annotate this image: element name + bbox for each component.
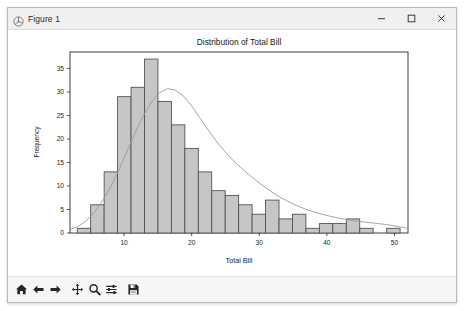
histogram-bar (319, 224, 332, 233)
maximize-button[interactable] (396, 8, 426, 29)
zoom-button[interactable] (86, 281, 103, 299)
y-axis-ticks: 05101520253035 (57, 65, 70, 237)
minimize-button[interactable] (366, 8, 396, 29)
floppy-disk-icon (127, 283, 140, 296)
histogram-bar (118, 97, 131, 233)
arrow-right-icon (49, 283, 62, 296)
sliders-icon (105, 283, 118, 296)
x-tick-label: 20 (188, 239, 196, 246)
histogram-bar (104, 172, 117, 233)
histogram-bar (171, 125, 184, 233)
home-button[interactable] (13, 281, 30, 299)
histogram-bar (306, 228, 319, 233)
y-tick-label: 30 (57, 88, 65, 95)
histogram-bar (266, 200, 279, 233)
histogram-bar (77, 228, 90, 233)
move-cross-icon (71, 283, 84, 296)
histogram-bar (198, 172, 211, 233)
plot-svg[interactable]: Distribution of Total Bill 1020304050 05… (8, 30, 456, 275)
navigation-toolbar (8, 276, 456, 302)
histogram-bar (279, 219, 292, 233)
histogram-bar (360, 228, 373, 233)
y-tick-label: 20 (57, 135, 65, 142)
arrow-left-icon (32, 283, 45, 296)
histogram-bar (333, 224, 346, 233)
y-tick-label: 15 (57, 159, 65, 166)
histogram-bar (158, 101, 171, 233)
x-tick-label: 10 (120, 239, 128, 246)
histogram-bar (212, 191, 225, 233)
chart-title: Distribution of Total Bill (197, 37, 282, 47)
y-axis-label: Frequency (33, 126, 41, 158)
histogram-bar (225, 195, 238, 233)
close-button[interactable] (426, 8, 456, 29)
back-button[interactable] (30, 281, 47, 299)
window-title: Figure 1 (28, 14, 60, 24)
forward-button[interactable] (47, 281, 64, 299)
histogram-bar (239, 205, 252, 233)
window-controls (366, 8, 456, 29)
histogram-bar (131, 87, 144, 233)
histogram-bar (91, 205, 104, 233)
pan-button[interactable] (69, 281, 86, 299)
x-axis-ticks: 1020304050 (120, 233, 398, 246)
figure-canvas-area: Distribution of Total Bill 1020304050 05… (8, 30, 456, 276)
x-axis-label: Total Bill (226, 256, 253, 265)
x-tick-label: 40 (323, 239, 331, 246)
y-tick-label: 35 (57, 65, 65, 72)
y-tick-label: 5 (60, 206, 64, 213)
x-tick-label: 50 (391, 239, 399, 246)
x-tick-label: 30 (256, 239, 264, 246)
y-tick-label: 0 (60, 229, 64, 236)
configure-subplots-button[interactable] (103, 281, 120, 299)
histogram-bar (185, 148, 198, 233)
histogram-bar (387, 228, 400, 233)
histogram-bar (252, 214, 265, 233)
histogram-bar (145, 59, 158, 233)
save-button[interactable] (125, 281, 142, 299)
magnifier-icon (88, 283, 101, 296)
y-tick-label: 25 (57, 112, 65, 119)
matplotlib-icon (13, 13, 24, 24)
figure-window: Figure 1 Distributio (7, 7, 457, 303)
histogram-bar (292, 214, 305, 233)
window-titlebar[interactable]: Figure 1 (8, 8, 456, 30)
matplotlib-figure[interactable]: Distribution of Total Bill 1020304050 05… (8, 30, 456, 275)
home-icon (15, 283, 28, 296)
y-tick-label: 10 (57, 182, 65, 189)
